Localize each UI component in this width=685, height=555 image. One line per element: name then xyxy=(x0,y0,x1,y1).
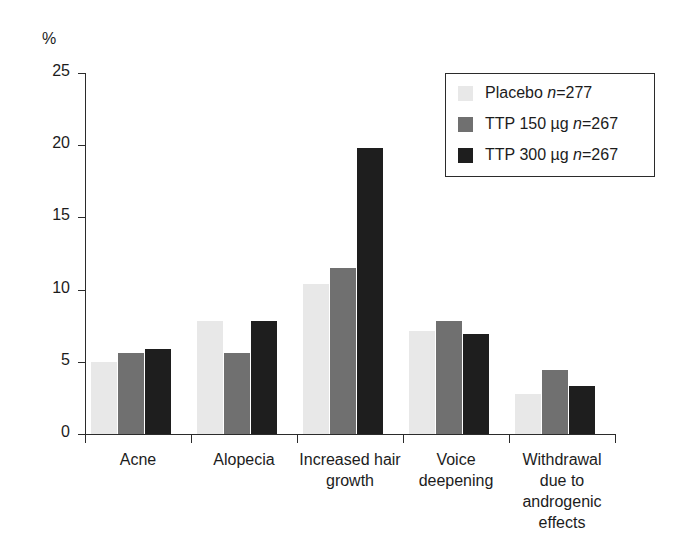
legend-label-placebo: Placebo n=277 xyxy=(485,84,592,102)
y-axis-tick-label: 0 xyxy=(0,423,70,441)
bar-group xyxy=(85,73,191,434)
y-axis-tick xyxy=(78,290,85,291)
y-axis-tick xyxy=(78,73,85,74)
bar xyxy=(91,362,117,434)
x-axis-category-label: Withdrawaldue toandrogeniceffects xyxy=(495,449,629,533)
bar-group xyxy=(191,73,297,434)
x-axis-tick xyxy=(85,435,86,443)
bar xyxy=(515,394,541,434)
bar-chart: % 0510152025 AcneAlopeciaIncreased hairg… xyxy=(0,0,685,555)
x-axis-tick xyxy=(297,435,298,443)
bar xyxy=(118,353,144,434)
bar xyxy=(197,321,223,434)
legend-item-ttp-300: TTP 300 µg n=267 xyxy=(458,144,618,166)
y-axis-tick-label: 5 xyxy=(0,351,70,369)
y-axis-tick xyxy=(78,434,85,435)
bar xyxy=(436,321,462,434)
legend-item-placebo: Placebo n=277 xyxy=(458,82,592,104)
legend-label-ttp-300: TTP 300 µg n=267 xyxy=(485,146,618,164)
x-axis-tick xyxy=(509,435,510,443)
bar-group xyxy=(297,73,403,434)
legend-swatch-ttp-300 xyxy=(458,148,473,163)
bar xyxy=(224,353,250,434)
y-axis-tick xyxy=(78,362,85,363)
bar xyxy=(303,284,329,434)
bar xyxy=(251,321,277,434)
bar xyxy=(145,349,171,434)
y-axis-tick-label: 15 xyxy=(0,206,70,224)
bar xyxy=(357,148,383,434)
legend-item-ttp-150: TTP 150 µg n=267 xyxy=(458,113,618,135)
x-axis-tick xyxy=(191,435,192,443)
bar xyxy=(330,268,356,434)
chart-legend: Placebo n=277 TTP 150 µg n=267 TTP 300 µ… xyxy=(445,73,655,177)
y-axis-tick-label: 10 xyxy=(0,279,70,297)
y-axis-tick-label: 20 xyxy=(0,134,70,152)
y-axis-tick xyxy=(78,217,85,218)
legend-swatch-ttp-150 xyxy=(458,117,473,132)
y-axis-tick xyxy=(78,145,85,146)
x-axis-tick xyxy=(615,435,616,443)
bar xyxy=(463,334,489,434)
y-axis-unit-label: % xyxy=(42,30,56,48)
bar xyxy=(409,331,435,434)
legend-swatch-placebo xyxy=(458,86,473,101)
x-axis-line xyxy=(85,434,616,435)
y-axis-tick-label: 25 xyxy=(0,62,70,80)
x-axis-tick xyxy=(403,435,404,443)
bar xyxy=(569,386,595,434)
legend-label-ttp-150: TTP 150 µg n=267 xyxy=(485,115,618,133)
bar xyxy=(542,370,568,434)
